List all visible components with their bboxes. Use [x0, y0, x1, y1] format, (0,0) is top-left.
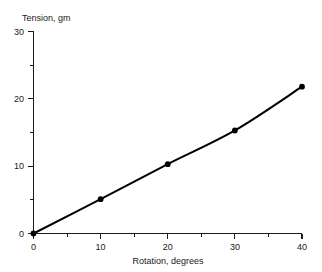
data-point — [165, 161, 171, 167]
y-tick-label-10: 10 — [14, 161, 24, 171]
x-axis-title: Rotation, degrees — [132, 256, 204, 266]
y-tick-label-0: 0 — [19, 229, 24, 239]
y-axis-title: Tension, gm — [22, 13, 71, 23]
data-point — [31, 231, 37, 237]
x-tick-label-40: 40 — [297, 242, 307, 252]
y-tick-label-20: 20 — [14, 94, 24, 104]
data-point — [299, 84, 305, 90]
data-point — [232, 128, 238, 134]
x-tick-label-0: 0 — [31, 242, 36, 252]
chart-background — [0, 0, 322, 272]
data-point — [98, 196, 104, 202]
tension-vs-rotation-chart: 30 20 10 0 Tension, gm 0 10 20 30 40 Rot… — [0, 0, 322, 272]
x-tick-label-20: 20 — [163, 242, 173, 252]
chart-page: 30 20 10 0 Tension, gm 0 10 20 30 40 Rot… — [0, 0, 322, 272]
y-tick-label-30: 30 — [14, 27, 24, 37]
x-tick-label-30: 30 — [230, 242, 240, 252]
x-tick-label-10: 10 — [96, 242, 106, 252]
